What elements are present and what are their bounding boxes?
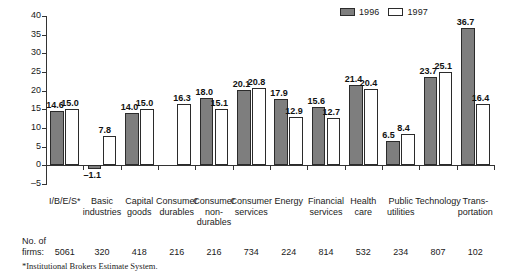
x-axis-separator [233, 165, 234, 170]
firm-count-value: 807 [419, 247, 456, 258]
y-axis-tick-label: 5 [36, 141, 41, 152]
y-axis-tick-mark [42, 147, 47, 148]
firm-count-value: 234 [382, 247, 419, 258]
firm-counts-row: 5061320418216216734224814532234807102 [46, 247, 494, 259]
y-axis-tick-mark [42, 128, 47, 129]
bar-value-label: 20.8 [248, 77, 266, 87]
y-axis-tick-label: 0 [36, 159, 41, 170]
bar-1997-12[interactable] [476, 104, 490, 165]
bar-1997-5[interactable] [215, 109, 229, 165]
bar-value-label: 15.1 [211, 98, 229, 108]
firm-count-value: 814 [307, 247, 344, 258]
bar-value-label: 8.4 [397, 123, 410, 133]
y-axis-tick-mark [42, 184, 47, 185]
x-axis-separator [494, 165, 495, 170]
y-axis-tick-label: 30 [31, 47, 41, 58]
chart-footnote: *Institutional Brokers Estimate System. [22, 261, 158, 271]
bar-value-label: 17.9 [270, 88, 288, 98]
firm-count-value: 734 [233, 247, 270, 258]
x-axis-separator [307, 165, 308, 170]
x-axis-separator [419, 165, 420, 170]
y-axis-tick-mark [42, 35, 47, 36]
bar-1996-5[interactable] [200, 98, 214, 165]
bar-value-label: 16.3 [173, 93, 191, 103]
plot-area: 4035302520151050–5 14.615.0–1.17.814.015… [46, 16, 494, 184]
bar-1997-4[interactable] [177, 104, 191, 165]
firm-count-value: 418 [121, 247, 158, 258]
firm-count-value: 320 [83, 247, 120, 258]
firm-count-value: 216 [158, 247, 195, 258]
y-axis-tick-mark [42, 53, 47, 54]
bar-value-label: 36.7 [457, 17, 475, 27]
bar-value-label: –1.1 [84, 170, 102, 180]
bar-1996-10[interactable] [386, 141, 400, 165]
firm-count-value: 5061 [46, 247, 83, 258]
y-axis-tick-label: –5 [31, 178, 41, 189]
y-axis-tick-mark [42, 16, 47, 17]
bar-value-label: 15.6 [308, 96, 326, 106]
bar-value-label: 6.5 [382, 130, 395, 140]
bar-1997-9[interactable] [364, 89, 378, 165]
bar-1996-11[interactable] [424, 77, 438, 165]
bar-1997-2[interactable] [103, 136, 117, 165]
y-axis-tick-label: 25 [31, 66, 41, 77]
bar-value-label: 15.0 [136, 98, 154, 108]
x-axis-separator [382, 165, 383, 170]
bar-value-label: 25.1 [435, 61, 453, 71]
x-axis-separator [270, 165, 271, 170]
x-axis-category-labels: I/B/E/S*Basic industriesCapital goodsCon… [46, 196, 494, 232]
bar-1997-7[interactable] [289, 117, 303, 165]
bar-1997-6[interactable] [252, 88, 266, 166]
y-axis-tick-label: 15 [31, 103, 41, 114]
firm-count-value: 216 [195, 247, 232, 258]
bar-1997-1[interactable] [65, 109, 79, 165]
x-axis-separator [195, 165, 196, 170]
bar-1996-2[interactable] [88, 165, 102, 169]
bar-1997-3[interactable] [140, 109, 154, 165]
bar-value-label: 16.4 [472, 93, 490, 103]
y-axis-tick-label: 10 [31, 122, 41, 133]
firm-count-value: 532 [345, 247, 382, 258]
bar-1996-9[interactable] [349, 85, 363, 165]
x-axis-separator [46, 165, 47, 170]
bar-value-label: 12.7 [323, 107, 341, 117]
legend-swatch-1996 [340, 8, 355, 16]
bar-value-label: 20.4 [360, 78, 378, 88]
bar-value-label: 15.0 [61, 98, 79, 108]
chart-container: 1996 1997 4035302520151050–5 14.615.0–1.… [0, 0, 505, 279]
y-axis-tick-mark [42, 72, 47, 73]
bar-value-label: 7.8 [99, 125, 112, 135]
x-axis-category-label: Trans- portation [453, 196, 498, 217]
legend-swatch-1997 [388, 8, 403, 16]
bar-1997-10[interactable] [401, 134, 415, 165]
bar-1997-11[interactable] [439, 72, 453, 166]
firm-count-value: 224 [270, 247, 307, 258]
bar-value-label: 18.0 [196, 87, 214, 97]
bar-1997-8[interactable] [327, 118, 341, 165]
bar-value-label: 12.9 [285, 106, 303, 116]
y-axis-tick-mark [42, 91, 47, 92]
firm-count-value: 102 [457, 247, 494, 258]
x-axis-separator [158, 165, 159, 170]
firms-caption: No. of firms: [22, 236, 46, 257]
x-axis-separator [121, 165, 122, 170]
bar-1996-3[interactable] [125, 113, 139, 165]
x-axis-separator [345, 165, 346, 170]
x-axis-separator [457, 165, 458, 170]
y-axis-tick-label: 20 [31, 85, 41, 96]
bar-1996-6[interactable] [237, 90, 251, 165]
y-axis-tick-label: 35 [31, 29, 41, 40]
y-axis-tick-label: 40 [31, 10, 41, 21]
bar-1996-1[interactable] [50, 111, 64, 166]
